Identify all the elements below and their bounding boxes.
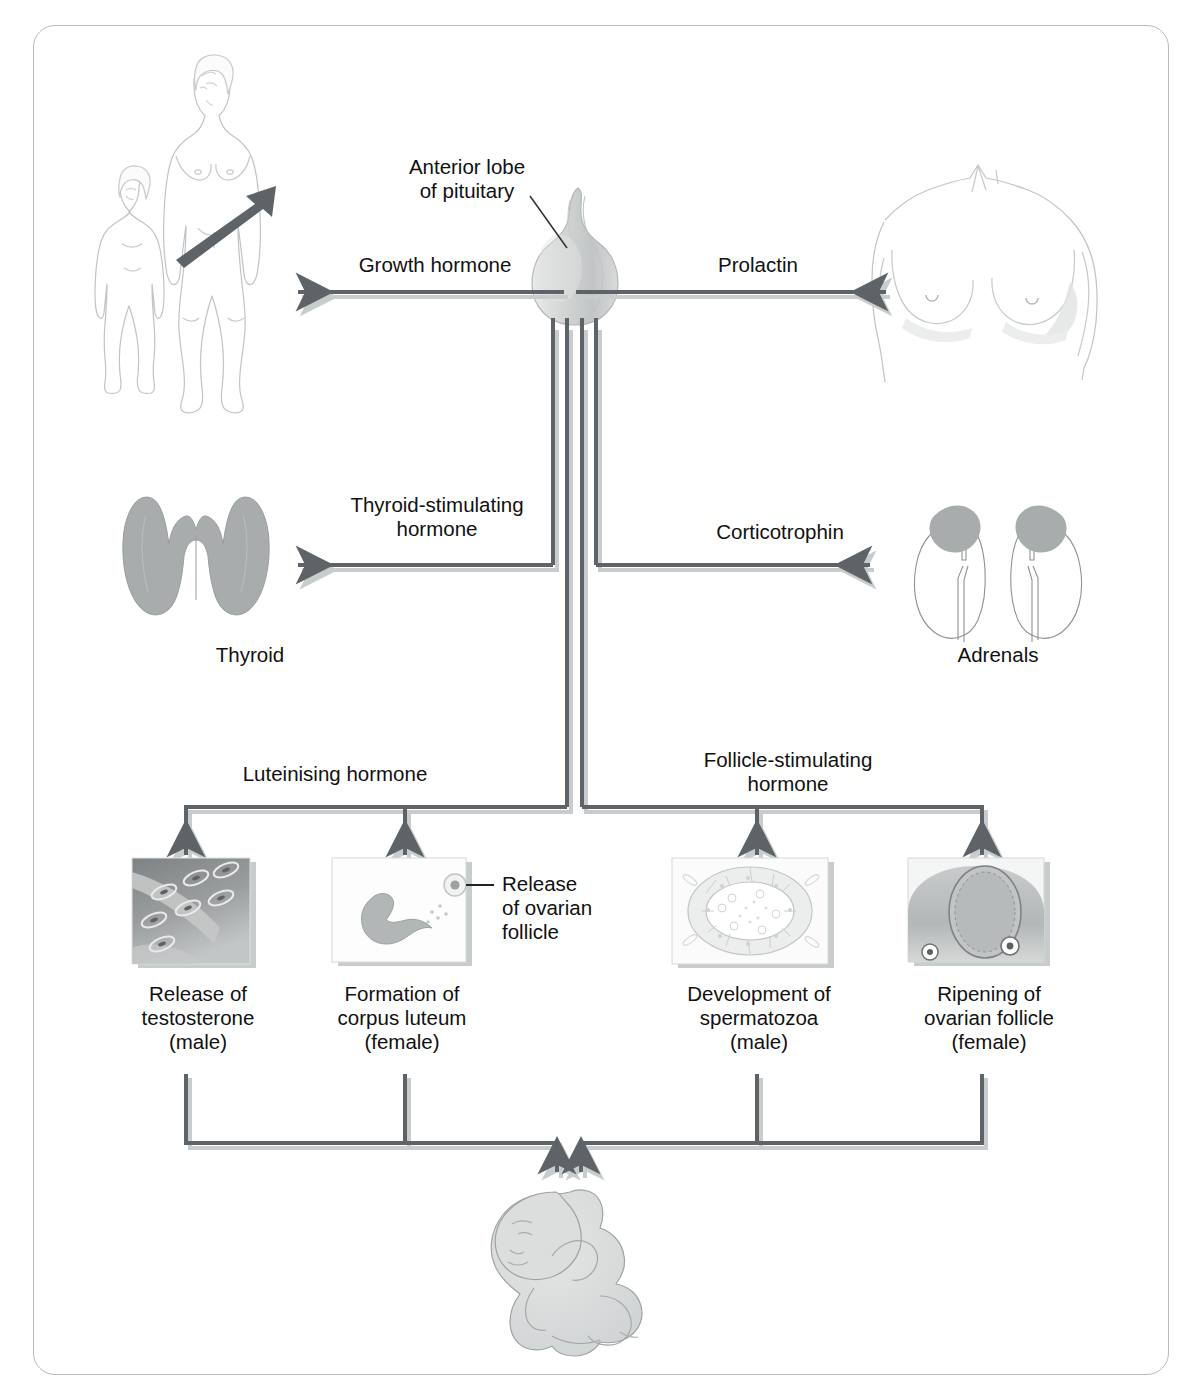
outcome-panel-leydig: [132, 858, 256, 968]
arrow-fsh-right: [582, 807, 982, 855]
label-tsh: Thyroid-stimulating hormone: [322, 493, 552, 541]
arrow-to-baby-right: [581, 1074, 982, 1172]
outcome-label-ovarian-follicle: Ripening of ovarian follicle (female): [894, 982, 1084, 1055]
label-adrenals: Adrenals: [898, 643, 1098, 667]
outcome-label-testosterone: Release of testosterone (male): [108, 982, 288, 1055]
outcome-label-spermatozoa: Development of spermatozoa (male): [660, 982, 858, 1055]
breast-torso-illustration: [872, 165, 1097, 382]
diagram-canvas: Anterior lobe of pituitary Growth hormon…: [0, 0, 1200, 1392]
pituitary-callout-label: Anterior lobe of pituitary: [352, 155, 582, 203]
outcome-label-corpus-luteum: Formation of corpus luteum (female): [308, 982, 496, 1055]
label-fsh: Follicle-stimulating hormone: [672, 748, 904, 796]
label-corticotrophin: Corticotrophin: [665, 520, 895, 544]
arrow-to-baby-left: [186, 1074, 557, 1172]
thyroid-illustration: [123, 497, 269, 615]
label-growth-hormone: Growth hormone: [320, 253, 550, 277]
diagram-graphics: [0, 0, 1200, 1392]
baby-illustration: [491, 1190, 642, 1356]
label-prolactin: Prolactin: [668, 253, 848, 277]
label-ovarian-release: Release of ovarian follicle: [502, 872, 652, 945]
arrow-lh-left: [186, 807, 567, 855]
hormone-arrow-network: [186, 292, 986, 1178]
growth-figures-illustration: [95, 55, 276, 413]
label-lh: Luteinising hormone: [185, 762, 485, 786]
outcome-panel-seminiferous-tubule: [672, 858, 834, 968]
label-thyroid: Thyroid: [150, 643, 350, 667]
outcome-panel-corpus-luteum: [332, 858, 472, 966]
adrenals-illustration: [914, 506, 1081, 642]
outcome-panel-ovarian-follicle: [908, 858, 1050, 966]
